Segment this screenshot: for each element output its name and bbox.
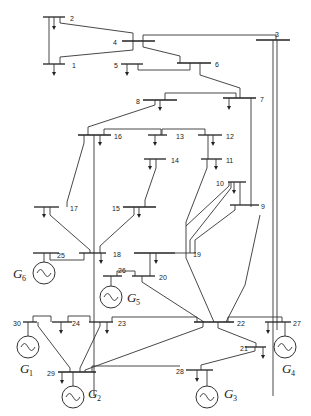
bus-13: 13 bbox=[148, 133, 184, 140]
bus-27: 27 bbox=[265, 320, 301, 327]
load-arrow-icon bbox=[99, 260, 103, 264]
diagram-canvas: 2 1 4 3 5 6 7 8 bbox=[0, 0, 311, 416]
load-arrow-icon bbox=[214, 166, 218, 170]
svg-text:28: 28 bbox=[176, 368, 184, 375]
bus-19: 19 bbox=[134, 251, 201, 258]
bus-22: 22 bbox=[194, 320, 245, 327]
svg-text:2: 2 bbox=[70, 15, 74, 22]
bus-5: 5 bbox=[114, 62, 143, 69]
svg-text:23: 23 bbox=[118, 320, 126, 327]
power-system-diagram: 2 1 4 3 5 6 7 8 bbox=[0, 0, 311, 416]
load-arrow-icon bbox=[137, 214, 141, 218]
svg-text:6: 6 bbox=[22, 274, 26, 283]
svg-text:20: 20 bbox=[159, 274, 167, 281]
load-arrow-icon bbox=[52, 72, 56, 76]
load-arrow-icon bbox=[266, 330, 270, 334]
svg-text:12: 12 bbox=[226, 133, 234, 140]
generator-g4: G 4 bbox=[274, 336, 296, 378]
generator-g1: G 1 bbox=[17, 336, 39, 378]
bus-8: 8 bbox=[136, 98, 177, 105]
svg-text:27: 27 bbox=[293, 320, 301, 327]
svg-text:25: 25 bbox=[57, 252, 65, 259]
bus-6: 6 bbox=[177, 61, 219, 68]
svg-text:16: 16 bbox=[114, 133, 122, 140]
svg-text:3: 3 bbox=[233, 394, 237, 403]
load-arrow-icon bbox=[59, 330, 63, 334]
svg-text:14: 14 bbox=[171, 157, 179, 164]
svg-text:10: 10 bbox=[216, 180, 224, 187]
load-arrow-icon bbox=[153, 142, 157, 146]
svg-text:9: 9 bbox=[261, 203, 265, 210]
svg-text:6: 6 bbox=[215, 61, 219, 68]
svg-text:13: 13 bbox=[176, 133, 184, 140]
svg-text:29: 29 bbox=[47, 370, 55, 377]
bus-26: 26 bbox=[103, 267, 126, 276]
bus-1: 1 bbox=[43, 62, 76, 69]
bus-2: 2 bbox=[43, 15, 74, 22]
bus-3: 3 bbox=[256, 31, 290, 40]
load-arrow-icon bbox=[148, 166, 152, 170]
bus-14: 14 bbox=[144, 157, 179, 164]
svg-text:22: 22 bbox=[237, 320, 245, 327]
bus-4: 4 bbox=[113, 39, 155, 46]
svg-text:24: 24 bbox=[72, 320, 80, 327]
svg-text:21: 21 bbox=[240, 345, 248, 352]
svg-text:5: 5 bbox=[114, 62, 118, 69]
svg-text:8: 8 bbox=[136, 98, 140, 105]
svg-text:1: 1 bbox=[29, 369, 33, 378]
load-arrow-icon bbox=[211, 142, 215, 146]
svg-text:11: 11 bbox=[226, 157, 233, 164]
generator-g2: G 2 bbox=[62, 386, 101, 408]
generator-g6: G 6 bbox=[13, 262, 55, 284]
load-arrow-icon bbox=[42, 214, 46, 218]
bus-20: 20 bbox=[132, 274, 167, 281]
bus-12: 12 bbox=[198, 133, 234, 140]
svg-text:17: 17 bbox=[70, 205, 78, 212]
generator-g5: G 5 bbox=[100, 286, 140, 308]
svg-text:3: 3 bbox=[275, 31, 279, 38]
svg-text:15: 15 bbox=[112, 205, 120, 212]
bus-21: 21 bbox=[240, 345, 266, 352]
svg-text:5: 5 bbox=[136, 298, 140, 307]
load-arrow-icon bbox=[261, 355, 265, 359]
load-arrow-icon bbox=[227, 106, 231, 110]
load-arrow-icon bbox=[232, 190, 236, 194]
bus-24: 24 bbox=[52, 320, 80, 327]
load-arrow-icon bbox=[154, 260, 158, 264]
load-arrow-icon bbox=[158, 107, 162, 111]
svg-text:7: 7 bbox=[260, 96, 264, 103]
svg-text:30: 30 bbox=[13, 320, 21, 327]
load-arrow-icon bbox=[60, 380, 64, 384]
bus-17: 17 bbox=[34, 205, 78, 212]
svg-text:1: 1 bbox=[72, 62, 76, 69]
load-arrow-icon bbox=[195, 378, 199, 382]
load-arrow-icon bbox=[52, 26, 56, 30]
svg-text:2: 2 bbox=[97, 394, 101, 403]
svg-text:26: 26 bbox=[118, 267, 126, 274]
bus-11: 11 bbox=[201, 157, 233, 164]
svg-text:19: 19 bbox=[193, 251, 201, 258]
generator-g3: G 3 bbox=[196, 386, 237, 408]
load-arrow-icon bbox=[98, 142, 102, 146]
svg-text:18: 18 bbox=[113, 251, 121, 258]
bus-29: 29 bbox=[47, 370, 96, 377]
svg-text:4: 4 bbox=[113, 39, 117, 46]
svg-text:4: 4 bbox=[291, 369, 295, 378]
load-arrow-icon bbox=[105, 330, 109, 334]
load-arrow-icon bbox=[125, 72, 129, 76]
bus-25: 25 bbox=[33, 252, 65, 259]
